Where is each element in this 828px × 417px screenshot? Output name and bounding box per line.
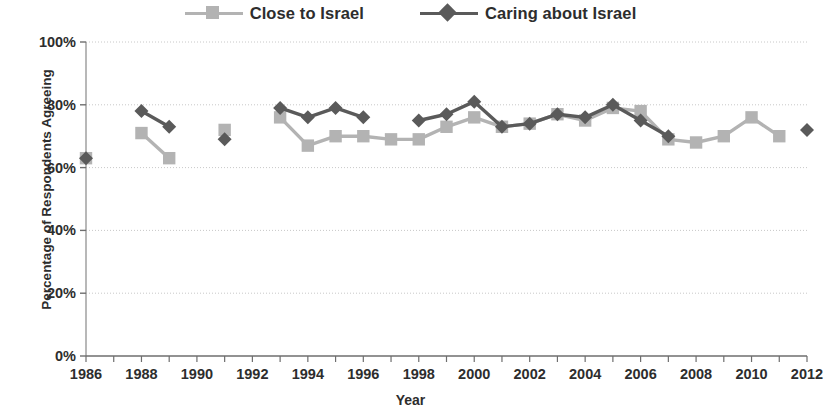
data-point-marker-square [413,133,425,145]
x-axis-tick-label: 2000 [444,367,504,382]
data-point-marker-diamond [134,104,148,118]
data-point-marker-square [773,130,785,142]
x-axis-title: Year [0,392,821,408]
data-point-marker-square [135,127,147,139]
data-point-marker-square [163,152,175,164]
x-axis-tick-label: 1994 [278,367,338,382]
x-axis-tick-label: 2006 [611,367,671,382]
x-axis-tick-label: 1998 [389,367,449,382]
data-point-marker-square [329,130,341,142]
data-point-marker-diamond [301,110,315,124]
data-point-marker-diamond [329,101,343,115]
x-axis-tick-label: 2004 [555,367,615,382]
data-point-marker-square [302,139,314,151]
data-point-marker-diamond [356,110,370,124]
y-axis-tick-label: 0% [16,349,76,364]
series-line-1 [280,108,363,117]
x-axis-tick-label: 1990 [167,367,227,382]
data-point-marker-square [718,130,730,142]
data-point-marker-square [357,130,369,142]
data-point-marker-square [690,136,702,148]
x-axis-tick-label: 1996 [333,367,393,382]
y-axis-title: Percentage of Respondents Agreeing [39,40,54,340]
x-axis-tick-label: 2008 [666,367,726,382]
data-point-marker-diamond [440,107,454,121]
x-axis-tick-label: 2012 [777,367,828,382]
data-point-marker-square [468,111,480,123]
data-point-marker-square [385,133,397,145]
data-point-marker-diamond [162,120,176,134]
series-line-1 [419,102,669,137]
x-axis-tick-label: 2002 [500,367,560,382]
x-axis-tick-label: 2010 [722,367,782,382]
data-point-marker-square [440,121,452,133]
x-axis-tick-label: 1986 [56,367,116,382]
data-point-marker-diamond [800,123,814,137]
x-axis-tick-label: 1992 [222,367,282,382]
data-point-marker-diamond [412,114,426,128]
x-axis-tick-label: 1988 [111,367,171,382]
data-point-marker-square [745,111,757,123]
